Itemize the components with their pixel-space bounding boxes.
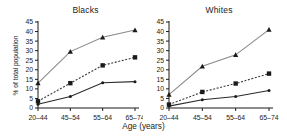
svg-text:10: 10	[156, 85, 164, 92]
svg-text:0: 0	[29, 104, 33, 111]
svg-text:40: 40	[25, 28, 33, 35]
svg-text:25: 25	[25, 57, 33, 64]
svg-text:35: 35	[25, 38, 33, 45]
svg-text:45: 45	[156, 18, 164, 25]
svg-text:55–64: 55–64	[226, 114, 245, 121]
svg-text:40: 40	[156, 28, 164, 35]
svg-text:15: 15	[25, 76, 33, 83]
svg-text:45–54: 45–54	[193, 114, 212, 121]
svg-text:20–44: 20–44	[29, 114, 48, 121]
svg-text:45–54: 45–54	[61, 114, 80, 121]
svg-text:25: 25	[156, 57, 164, 64]
svg-text:5: 5	[29, 95, 33, 102]
svg-text:35: 35	[156, 38, 164, 45]
svg-text:5: 5	[160, 95, 164, 102]
panel-whites: Whites 05101520253035404520–4445–5455–64…	[143, 0, 287, 138]
plot-area-blacks: 05101520253035404520–4445–5455–6465–74	[0, 0, 143, 138]
svg-text:0: 0	[160, 104, 164, 111]
x-axis-title: Age (years)	[0, 122, 287, 131]
svg-text:30: 30	[25, 47, 33, 54]
svg-text:65–74: 65–74	[260, 114, 279, 121]
svg-text:55–64: 55–64	[93, 114, 112, 121]
svg-text:65–74: 65–74	[126, 114, 143, 121]
panel-blacks: Blacks % of total population 05101520253…	[0, 0, 143, 138]
svg-text:10: 10	[25, 85, 33, 92]
svg-text:45: 45	[25, 18, 33, 25]
chart-figure: Blacks % of total population 05101520253…	[0, 0, 287, 138]
svg-text:20: 20	[25, 66, 33, 73]
svg-text:15: 15	[156, 76, 164, 83]
svg-text:20–44: 20–44	[160, 114, 179, 121]
svg-text:20: 20	[156, 66, 164, 73]
svg-text:30: 30	[156, 47, 164, 54]
plot-area-whites: 05101520253035404520–4445–5455–6465–74	[143, 0, 287, 138]
